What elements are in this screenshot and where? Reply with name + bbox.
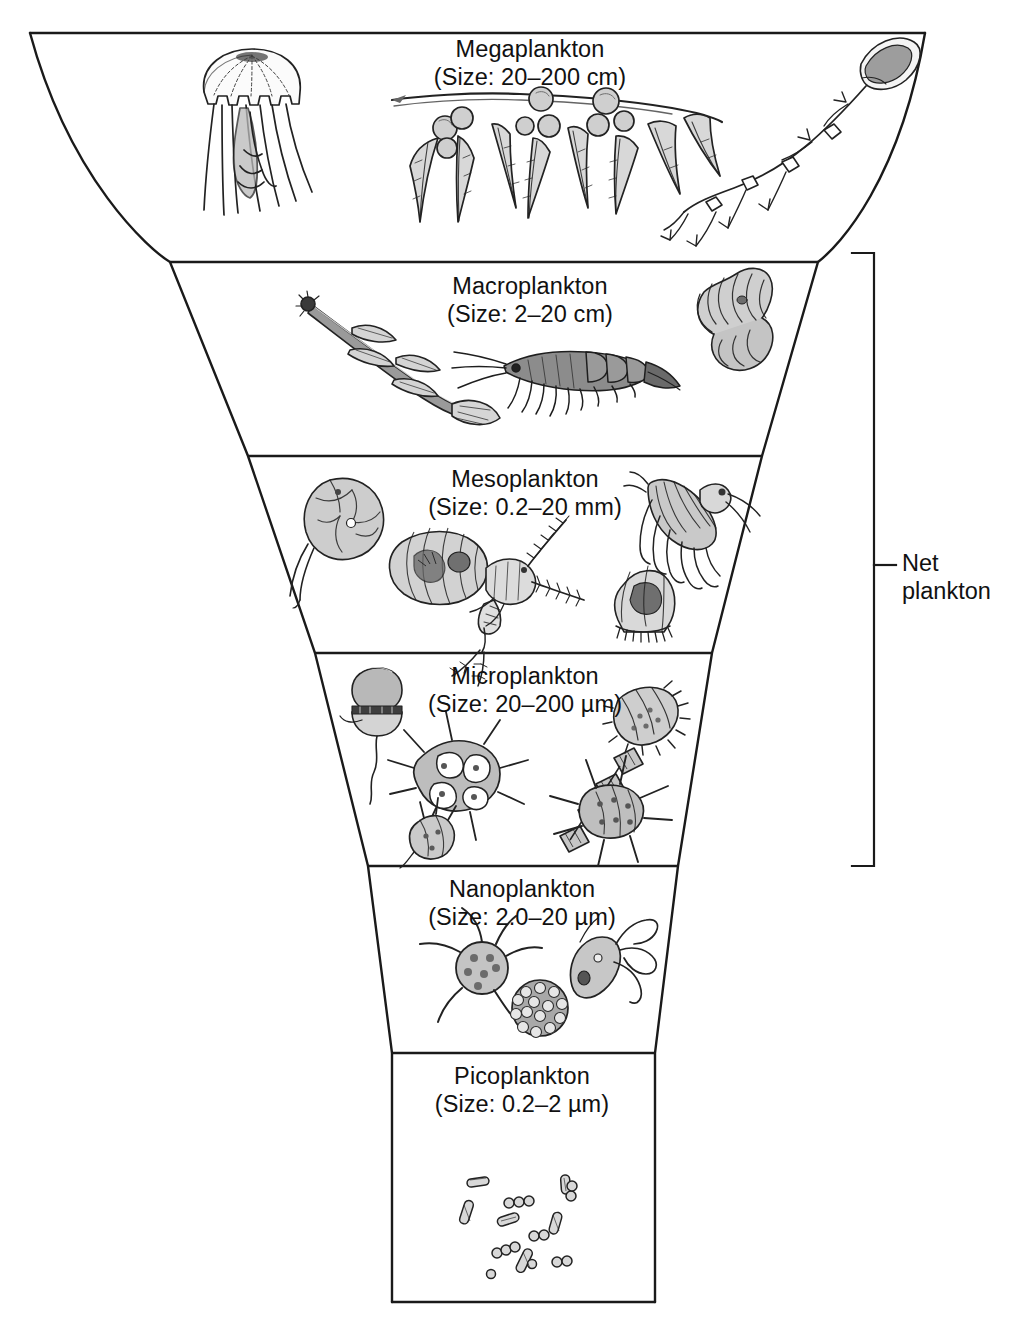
organism-larva [615, 566, 675, 642]
organism-salp [697, 268, 773, 370]
net-plankton-label: Net plankton [902, 549, 991, 605]
organism-tintinnid [603, 681, 690, 755]
net-plankton-bracket [852, 253, 896, 866]
organism-ostracod [389, 528, 487, 605]
organism-dinoflagellate [340, 668, 402, 805]
funnel-left-side [30, 33, 392, 1302]
diagram-canvas [0, 0, 1032, 1327]
organism-bacteria [458, 1175, 577, 1279]
funnel-outline [30, 33, 925, 1302]
organism-sargassum-seaweed [392, 87, 722, 222]
net-plankton-label-line2: plankton [902, 577, 991, 605]
organism-jellyfish [204, 49, 312, 215]
net-plankton-label-line1: Net [902, 549, 991, 577]
funnel-right-side [655, 33, 925, 1302]
organism-larvacean [290, 478, 384, 608]
organism-flagellate [570, 918, 657, 1003]
section-dividers [170, 262, 818, 1053]
bracket-path [852, 253, 874, 866]
plankton-size-diagram: Megaplankton (Size: 20–200 cm) Macroplan… [0, 0, 1032, 1327]
organism-arrow-worm [296, 291, 500, 425]
organism-coccosphere [511, 980, 569, 1038]
organism-star-diatom [388, 712, 528, 840]
